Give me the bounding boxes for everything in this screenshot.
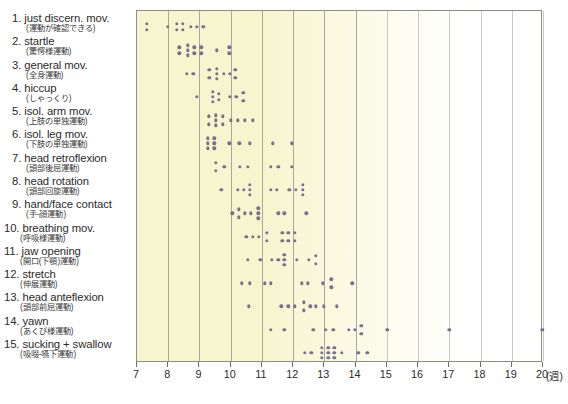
category-label-en: 13. head anteflexion (4, 291, 128, 303)
tick-16 (417, 362, 418, 367)
gridline-week-19 (512, 11, 513, 361)
category-label-en: 11. jaw opening (4, 245, 128, 257)
category-label-jp: (あくび様運動) (4, 327, 128, 337)
category-label-7: 7. head retroflexion(頭部後屈運動) (4, 152, 128, 174)
category-label-2: 2. startle(驚愕様運動) (4, 35, 128, 57)
category-label-en: 8. head rotation (4, 175, 128, 187)
x-axis-unit-label: (週) (546, 368, 563, 383)
category-label-1: 1. just discern. mov.(運動が確認できる) (4, 12, 128, 34)
x-tick-label-7: 7 (133, 368, 139, 380)
tick-12 (292, 362, 293, 367)
tick-17 (448, 362, 449, 367)
x-axis-tick-labels: 7891011121314151617181920 (0, 368, 568, 384)
category-label-8: 8. head rotation(頭部回旋運動) (4, 175, 128, 197)
gridline-week-9 (199, 11, 200, 361)
x-tick-label-19: 19 (505, 368, 517, 380)
category-label-6: 6. isol. leg mov.(下肢の単独運動) (4, 128, 128, 150)
plot-area (136, 10, 542, 362)
gridline-week-14 (356, 11, 357, 361)
gridline-week-10 (231, 11, 232, 361)
category-label-jp: (しゃっくり) (4, 94, 128, 104)
x-tick-label-14: 14 (349, 368, 361, 380)
category-label-jp: (下肢の単独運動) (4, 140, 128, 150)
x-tick-label-10: 10 (224, 368, 236, 380)
chart-figure: 1. just discern. mov.(運動が確認できる)2. startl… (0, 0, 568, 404)
tick-8 (167, 362, 168, 367)
tick-15 (386, 362, 387, 367)
category-label-14: 14. yawn(あくび様運動) (4, 315, 128, 337)
category-label-jp: (上肢の単独運動) (4, 117, 128, 127)
category-label-en: 5. isol. arm mov. (4, 105, 128, 117)
gridline-week-12 (293, 11, 294, 361)
gridline-week-16 (418, 11, 419, 361)
gridline-week-13 (324, 11, 325, 361)
x-tick-label-9: 9 (195, 368, 201, 380)
category-label-en: 2. startle (4, 35, 128, 47)
category-label-jp: (驚愕様運動) (4, 47, 128, 57)
category-label-15: 15. sucking + swallow(吸啜-嚥下運動) (4, 338, 128, 360)
category-label-en: 3. general mov. (4, 59, 128, 71)
tick-19 (511, 362, 512, 367)
category-label-en: 12. stretch (4, 268, 128, 280)
category-label-jp: (手-顔運動) (4, 210, 128, 220)
category-label-jp: (伸展運動) (4, 280, 128, 290)
x-tick-label-15: 15 (380, 368, 392, 380)
tick-13 (323, 362, 324, 367)
category-label-en: 10. breathing mov. (4, 222, 128, 234)
category-label-jp: (運動が確認できる) (4, 24, 128, 34)
category-label-3: 3. general mov.(全身運動) (4, 59, 128, 81)
category-label-jp: (開口(下顎)運動) (4, 257, 128, 267)
gridline-week-18 (481, 11, 482, 361)
category-label-en: 1. just discern. mov. (4, 12, 128, 24)
gridline-week-17 (449, 11, 450, 361)
x-tick-label-16: 16 (411, 368, 423, 380)
category-label-jp: (全身運動) (4, 71, 128, 81)
category-label-11: 11. jaw opening(開口(下顎)運動) (4, 245, 128, 267)
x-tick-label-8: 8 (164, 368, 170, 380)
category-label-en: 6. isol. leg mov. (4, 128, 128, 140)
tick-7 (136, 362, 137, 367)
category-label-jp: (吸啜-嚥下運動) (4, 350, 128, 360)
figure-caption (2, 391, 302, 403)
category-label-13: 13. head anteflexion(頭部前屈運動) (4, 291, 128, 313)
category-label-10: 10. breathing mov.(呼吸様運動) (4, 222, 128, 244)
gridline-week-15 (387, 11, 388, 361)
category-label-en: 7. head retroflexion (4, 152, 128, 164)
category-label-jp: (呼吸様運動) (4, 234, 128, 244)
x-tick-label-13: 13 (317, 368, 329, 380)
tick-14 (355, 362, 356, 367)
category-label-12: 12. stretch(伸展運動) (4, 268, 128, 290)
category-label-column: 1. just discern. mov.(運動が確認できる)2. startl… (0, 8, 128, 360)
category-label-jp: (頭部回旋運動) (4, 187, 128, 197)
gridline-week-20 (543, 11, 544, 361)
category-label-jp: (頭部前屈運動) (4, 303, 128, 313)
gridline-week-11 (262, 11, 263, 361)
x-tick-label-18: 18 (474, 368, 486, 380)
tick-11 (261, 362, 262, 367)
category-label-9: 9. hand/face contact(手-顔運動) (4, 198, 128, 220)
tick-9 (198, 362, 199, 367)
x-tick-label-12: 12 (286, 368, 298, 380)
category-label-en: 15. sucking + swallow (4, 338, 128, 350)
category-label-en: 4. hiccup (4, 82, 128, 94)
x-tick-label-17: 17 (442, 368, 454, 380)
category-label-5: 5. isol. arm mov.(上肢の単独運動) (4, 105, 128, 127)
category-label-jp: (頭部後屈運動) (4, 164, 128, 174)
category-label-en: 9. hand/face contact (4, 198, 128, 210)
tick-18 (480, 362, 481, 367)
x-tick-label-11: 11 (255, 368, 266, 380)
tick-10 (230, 362, 231, 367)
tick-20 (542, 362, 543, 367)
category-label-en: 14. yawn (4, 315, 128, 327)
category-label-4: 4. hiccup(しゃっくり) (4, 82, 128, 104)
gridline-week-8 (168, 11, 169, 361)
